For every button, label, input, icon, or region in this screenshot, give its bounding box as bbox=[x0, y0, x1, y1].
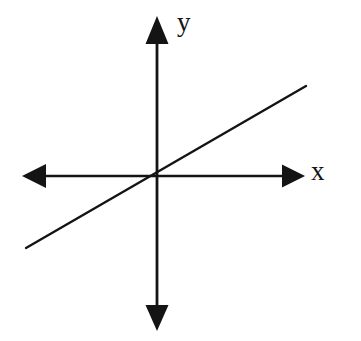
plotted-line bbox=[26, 86, 306, 248]
coordinate-axes-diagram bbox=[0, 0, 361, 341]
x-axis-positive-arrowhead bbox=[282, 165, 305, 188]
y-axis-negative-arrowhead bbox=[146, 305, 169, 331]
x-axis-label: x bbox=[311, 158, 325, 185]
figure-canvas: y x bbox=[0, 0, 361, 341]
y-axis-positive-arrowhead bbox=[146, 16, 169, 44]
x-axis-negative-arrowhead bbox=[22, 164, 46, 188]
y-axis-label: y bbox=[177, 9, 191, 36]
